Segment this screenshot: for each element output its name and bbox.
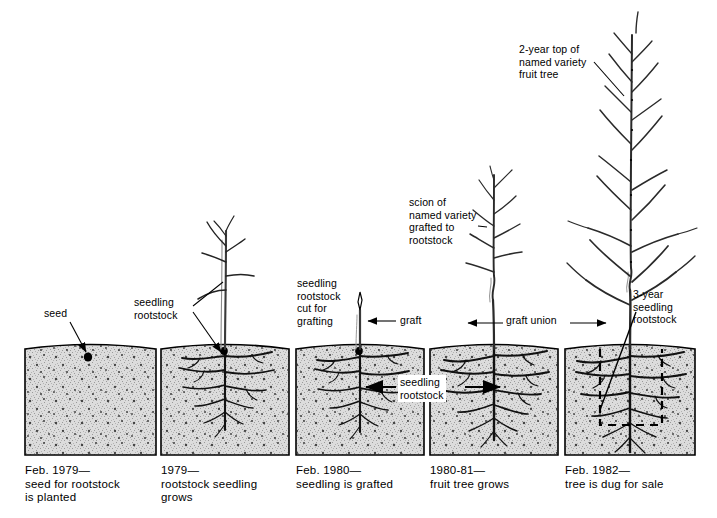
seed-marker: [84, 352, 92, 361]
leader-scion: [478, 226, 487, 227]
soil-block-1: [25, 340, 156, 455]
label-graft: graft: [400, 314, 422, 327]
label-seedling-rootstock-2: seedling rootstock: [398, 375, 446, 402]
label-seedling-rootstock-1: seedling rootstock: [134, 296, 178, 321]
leader-seedling-rootstock-a: [193, 282, 223, 306]
grafted-stub-3: [356, 292, 362, 349]
label-graft-union: graft union: [506, 314, 557, 327]
soil-block-2: [161, 340, 289, 455]
label-cut-for-grafting: seedling rootstock cut for grafting: [297, 277, 341, 327]
caption-panel-3: Feb. 1980— seedling is grafted: [296, 464, 393, 491]
soil-block-4: [430, 340, 558, 455]
caption-panel-4: 1980-81— fruit tree grows: [430, 464, 509, 491]
caption-panel-2: 1979— rootstock seedling grows: [161, 464, 257, 505]
label-2year-top: 2-year top of named variety fruit tree: [519, 43, 586, 81]
caption-panel-1: Feb. 1979— seed for rootstock is planted: [25, 464, 120, 505]
diagram-canvas: seed seedling rootstock seedling rootsto…: [0, 0, 717, 518]
seedling-plant-2: [198, 216, 254, 349]
soil-block-5: [565, 340, 695, 455]
fruit-tree-5: [567, 12, 697, 349]
label-seed: seed: [44, 307, 67, 320]
caption-panel-5: Feb. 1982— tree is dug for sale: [565, 464, 664, 491]
label-scion: scion of named variety grafted to rootst…: [409, 196, 476, 246]
graft-scion-wedge: [358, 292, 362, 310]
grafting-process-illustration: [0, 0, 717, 518]
label-3year-rootstock: 3-year seedling rootstock: [633, 288, 677, 326]
